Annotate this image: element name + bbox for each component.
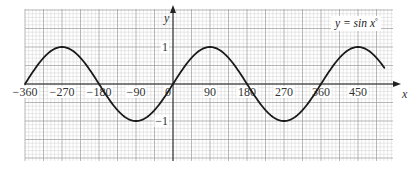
x-tick-label: 180	[238, 85, 256, 99]
x-tick-label: −90	[127, 85, 146, 99]
x-tick-label: −360	[13, 85, 38, 99]
x-axis-arrow-icon	[393, 81, 401, 87]
x-tick-label: 360	[312, 85, 330, 99]
x-tick-label: 270	[275, 85, 293, 99]
x-tick-label: 90	[204, 85, 216, 99]
y-tick-label: −1	[155, 114, 168, 128]
equation-label: y = sin x°	[334, 17, 378, 30]
x-tick-label: −270	[50, 85, 75, 99]
x-axis-label: x	[401, 87, 408, 101]
y-tick-label: 1	[162, 40, 168, 54]
x-tick-label: 450	[349, 85, 367, 99]
y-axis-label: y	[163, 11, 170, 25]
sine-graph: −360−270−180−90090180270360450 1−1 x y y…	[0, 0, 417, 170]
